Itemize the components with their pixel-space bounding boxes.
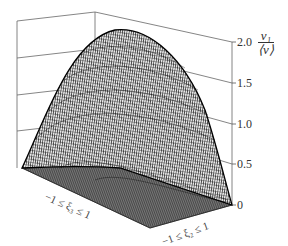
z-tick-label: 1.5 <box>237 77 252 89</box>
z-tick-label: 1.0 <box>237 118 252 130</box>
z-tick-label: 0 <box>237 199 243 211</box>
z-axis-denominator: ⟨v⟩ <box>258 43 274 57</box>
z-axis-title: v₁ ⟨v⟩ <box>258 30 274 57</box>
z-tick-label: 0.5 <box>237 158 252 170</box>
z-tick-label: 2.0 <box>237 36 252 48</box>
z-axis-ticks <box>232 42 236 205</box>
